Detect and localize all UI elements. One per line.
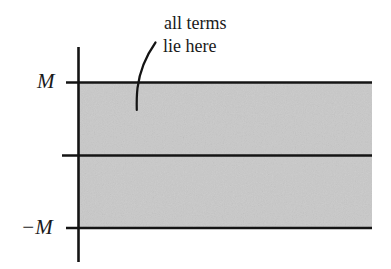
figure-canvas: M −M all terms lie here (0, 0, 391, 269)
bounded-band-diagram (0, 0, 391, 269)
